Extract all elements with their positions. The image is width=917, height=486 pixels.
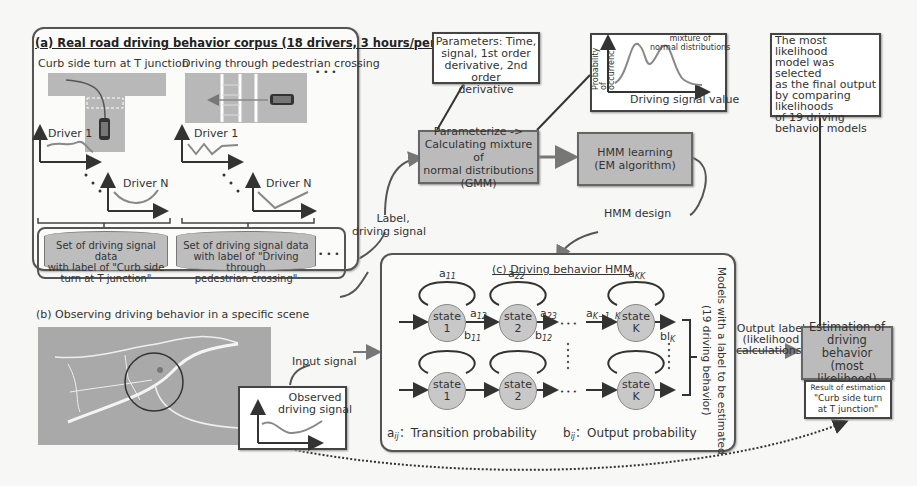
state-k-top: state K <box>617 304 655 342</box>
output-label: Output label (likelihood calculations) <box>736 323 806 356</box>
b11-sub: 11 <box>471 334 481 343</box>
akk-label: aKK <box>628 268 645 283</box>
models-side-label-2: (19 driving behavior) <box>700 305 713 416</box>
state-k-bottom: state K <box>617 372 655 410</box>
a22-main: a <box>508 267 515 280</box>
ak1k-label: aK−1, K <box>586 308 620 323</box>
akk-sub: KK <box>635 272 646 281</box>
state-1-bottom: state 1 <box>428 372 466 410</box>
bk-label: blK <box>660 331 675 346</box>
b11-label: b11 <box>464 330 481 345</box>
result-box: Result of estimation "Curb side turn at … <box>804 380 892 419</box>
estimation-line1: Estimation of <box>803 321 891 334</box>
hmm-art <box>0 0 917 486</box>
a23-label: a23 <box>540 308 557 323</box>
a23-sub: 23 <box>547 312 557 321</box>
b12-label: b12 <box>535 330 552 345</box>
b11-main: b <box>464 329 471 342</box>
models-side-label-1: Models with a label to be estimated <box>715 267 728 455</box>
a22-sub: 22 <box>515 272 525 281</box>
a22-label: a22 <box>508 268 525 283</box>
legend-b-text: ：Output probability <box>575 426 697 440</box>
result-line2: "Curb side turn <box>806 393 890 404</box>
a11-sub: 11 <box>446 272 456 281</box>
akk-main: a <box>628 267 635 280</box>
a12-main: a <box>470 307 477 320</box>
a12-sub: 12 <box>477 312 487 321</box>
ellipsis-bottom: • • • <box>560 386 577 398</box>
a11-label: a11 <box>439 268 456 283</box>
result-line3: at T junction" <box>806 404 890 415</box>
state-num: 1 <box>429 323 465 335</box>
output-line3: calculations) <box>736 345 806 356</box>
a11-main: a <box>439 267 446 280</box>
b12-main: b <box>535 329 542 342</box>
a23-main: a <box>540 307 547 320</box>
legend-output: bij：Output probability <box>563 427 697 443</box>
b12-sub: 12 <box>542 334 552 343</box>
ak1k-sub: K−1, K <box>593 312 620 321</box>
result-line1: Result of estimation <box>806 382 890 393</box>
bk-sub: K <box>670 335 675 344</box>
state-num: K <box>618 391 654 403</box>
legend-transition: aij：Transition probability <box>387 427 537 443</box>
a12-label: a12 <box>470 308 487 323</box>
estimation-box: Estimation of driving behavior (most lik… <box>801 326 893 380</box>
state-num: 1 <box>429 391 465 403</box>
state-num: 2 <box>500 391 536 403</box>
state-2-top: state 2 <box>499 304 537 342</box>
state-1-top: state 1 <box>428 304 466 342</box>
ellipsis-top: • • • <box>560 318 577 330</box>
state-num: K <box>618 323 654 335</box>
state-2-bottom: state 2 <box>499 372 537 410</box>
bk-main: bl <box>660 330 670 343</box>
legend-a-text: ：Transition probability <box>399 426 537 440</box>
state-num: 2 <box>500 323 536 335</box>
legend-b-symbol: b <box>563 426 571 440</box>
ak1k-main: a <box>586 307 593 320</box>
estimation-line2: driving behavior <box>803 334 891 360</box>
